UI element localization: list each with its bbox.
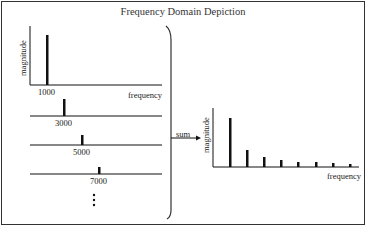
sum-label: sum [176, 129, 190, 139]
diagram-graphics [0, 0, 366, 226]
brace-icon [166, 26, 171, 219]
right-ylabel: magnitude [201, 117, 211, 153]
component-plot-1000 [30, 26, 162, 85]
freq-label-5000: 5000 [73, 147, 90, 157]
freq-label-7000: 7000 [90, 176, 107, 186]
freq-label-1000: 1000 [38, 87, 55, 97]
sum-spectrum-plot [213, 108, 359, 167]
right-xlabel: frequency [327, 171, 361, 181]
ellipsis-icon [93, 194, 95, 206]
component-plot-5000 [30, 135, 162, 145]
freq-label-3000: 3000 [55, 118, 72, 128]
component-plot-3000 [30, 99, 162, 116]
left-xlabel: frequency [128, 90, 162, 100]
component-plot-7000 [30, 167, 162, 174]
left-ylabel: magnitude [18, 40, 28, 76]
